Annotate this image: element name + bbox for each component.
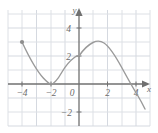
x-tick-label-neg4: −4	[16, 88, 27, 98]
curve-endpoint-dot	[20, 40, 24, 44]
y-tick-label-4: 4	[66, 24, 71, 34]
graph-figure: −4 −2 0 2 4 4 2 −2 y x	[0, 0, 158, 133]
y-tick-label-neg2: −2	[61, 108, 72, 118]
x-tick-label-neg2: −2	[45, 88, 56, 98]
coordinate-plane: −4 −2 0 2 4 4 2 −2 y x	[0, 0, 158, 133]
x-axis-label: x	[146, 84, 151, 94]
x-tick-label-2: 2	[105, 88, 110, 98]
x-tick-label-zero: 0	[70, 88, 75, 98]
y-axis-label: y	[72, 5, 77, 15]
